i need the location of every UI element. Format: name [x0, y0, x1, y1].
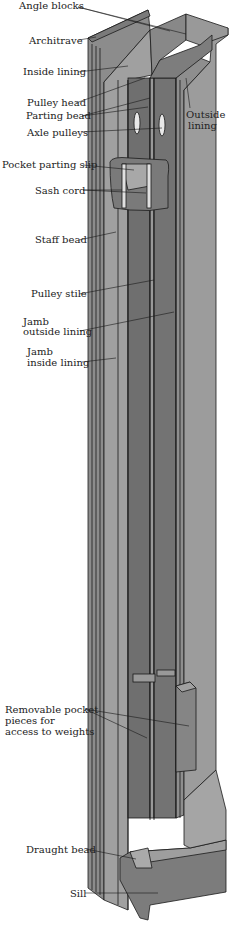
label-pocket-parting-slip: Pocket parting slip — [2, 159, 97, 170]
frame-body — [88, 10, 228, 910]
label-inside-lining: Inside lining — [23, 66, 86, 77]
label-pulley-stile: Pulley stile — [31, 288, 87, 299]
label-pulley-head: Pulley head — [27, 97, 86, 108]
label-sill: Sill — [70, 888, 86, 899]
pocket-graphic — [110, 158, 169, 211]
label-jamb-inside-line1: Jamb — [27, 346, 53, 357]
label-parting-bead: Parting bead — [26, 110, 91, 121]
label-removable-line3: access to weights — [5, 726, 94, 737]
label-removable-line1: Removable pocket — [5, 704, 98, 715]
label-angle-blocks: Angle blocks — [19, 0, 84, 11]
label-axle-pulleys: Axle pulleys — [27, 127, 88, 138]
label-jamb-outside-line2: outside lining — [23, 326, 92, 337]
sash-window-frame-illustration — [0, 0, 233, 925]
label-outside-lining-line1: Outside — [186, 109, 225, 120]
label-removable-line2: pieces for — [5, 715, 55, 726]
label-draught-bead: Draught bead — [26, 844, 96, 855]
label-outside-lining-line2: lining — [188, 120, 217, 131]
label-sash-cord: Sash cord — [35, 185, 85, 196]
label-architrave: Architrave — [29, 35, 83, 46]
label-staff-bead: Staff bead — [35, 234, 87, 245]
label-jamb-inside-line2: inside lining — [27, 357, 89, 368]
